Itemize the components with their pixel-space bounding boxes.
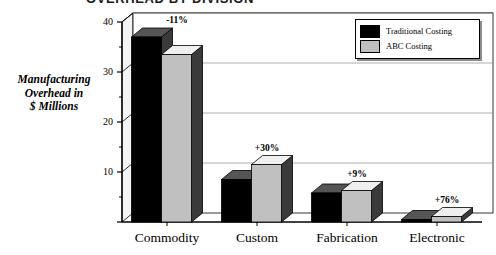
- delta-annotation-fabrication: +9%: [327, 169, 387, 179]
- delta-annotation-custom: +30%: [237, 143, 297, 153]
- legend-label-abc: ABC Costing: [386, 41, 432, 51]
- x-tick-label-electronic: Electronic: [377, 230, 496, 246]
- legend-item-abc: ABC Costing: [360, 39, 475, 53]
- bar-abc-0-front: [162, 55, 192, 223]
- bar-abc-1-side: [282, 156, 293, 223]
- legend-swatch-traditional: [360, 25, 380, 38]
- bar-traditional-0-front: [132, 37, 162, 222]
- bar-abc-0-side: [192, 46, 203, 223]
- y-tick-label: 20: [89, 116, 113, 127]
- bar-abc-1-front: [252, 165, 282, 223]
- y-tick-label: 30: [89, 66, 113, 77]
- chart-legend: Traditional Costing ABC Costing: [355, 19, 480, 59]
- bar-traditional-2-front: [312, 193, 342, 222]
- bar-abc-2-front: [342, 191, 372, 223]
- delta-annotation-electronic: +76%: [417, 195, 477, 205]
- legend-item-traditional: Traditional Costing: [360, 24, 475, 38]
- bar-traditional-1-front: [222, 180, 252, 223]
- y-tick-label: 10: [89, 166, 113, 177]
- bar-abc-3-front: [432, 217, 462, 223]
- delta-annotation-commodity: -11%: [147, 15, 207, 25]
- legend-swatch-abc: [360, 40, 380, 53]
- y-tick-label: 40: [89, 16, 113, 27]
- legend-label-traditional: Traditional Costing: [386, 26, 452, 36]
- bar-traditional-3-front: [402, 220, 432, 223]
